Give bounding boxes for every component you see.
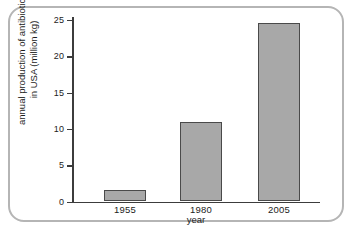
y-tick-mark-15 xyxy=(67,93,72,94)
y-axis-title-line-1: annual production of antibiotics xyxy=(16,0,28,145)
y-tick-mark-20 xyxy=(67,56,72,57)
y-tick-mark-10 xyxy=(67,129,72,130)
bar-chart-plot-area: 0 5 10 15 20 25 1955 1980 2005 year annu… xyxy=(0,0,356,233)
y-tick-label-10: 10 xyxy=(38,125,64,134)
y-axis-title-line-2: in USA (million kg) xyxy=(27,0,39,145)
x-axis-line xyxy=(72,202,320,204)
y-tick-label-5: 5 xyxy=(38,161,64,170)
bar-1980 xyxy=(180,122,222,202)
y-tick-label-0: 0 xyxy=(38,198,64,207)
y-tick-label-20: 20 xyxy=(38,52,64,61)
y-tick-mark-5 xyxy=(67,165,72,166)
y-tick-label-25: 25 xyxy=(38,16,64,25)
y-tick-mark-25 xyxy=(67,20,72,21)
y-tick-mark-0 xyxy=(67,202,72,203)
bar-1955 xyxy=(104,190,146,202)
y-axis-title: annual production of antibiotics in USA … xyxy=(16,0,39,145)
figure-root: 0 5 10 15 20 25 1955 1980 2005 year annu… xyxy=(0,0,356,233)
y-axis-line xyxy=(72,17,74,203)
bar-2005 xyxy=(258,23,300,202)
x-axis-title: year xyxy=(72,214,320,225)
y-tick-label-15: 15 xyxy=(38,89,64,98)
